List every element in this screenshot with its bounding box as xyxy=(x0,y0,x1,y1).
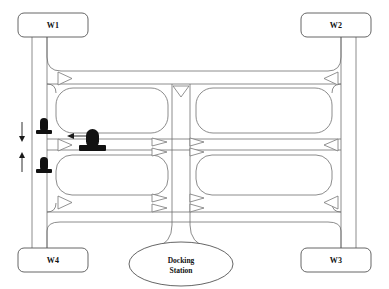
marker-ne-top-icon xyxy=(324,72,338,85)
aisle-top-upper-wall xyxy=(47,37,341,71)
flow-down-left-head xyxy=(19,136,25,142)
shelf-bottom-right[interactable] xyxy=(196,155,332,195)
robot-upper-left[interactable] xyxy=(36,118,52,134)
station-w1[interactable]: W1 xyxy=(18,13,88,37)
station-w2[interactable]: W2 xyxy=(301,13,371,37)
shelf-bottom-left[interactable] xyxy=(56,155,168,195)
fillet-tr-a xyxy=(332,84,341,93)
marker-nw-top-icon xyxy=(58,72,72,85)
marker-center-top-icon xyxy=(173,86,189,97)
marker-midright-b-icon xyxy=(190,148,204,156)
shelf-top-left[interactable] xyxy=(56,88,168,133)
diagram-canvas: W1 W2 W3 W4 Docking Station xyxy=(0,0,389,289)
marker-se-bot-icon xyxy=(324,196,338,209)
station-w1-label: W1 xyxy=(47,21,60,30)
marker-sw-bot-icon xyxy=(58,196,72,209)
station-w4[interactable]: W4 xyxy=(18,248,88,272)
marker-botleft-b-icon xyxy=(152,204,167,212)
flow-up-left-head xyxy=(19,152,25,158)
robot-center-base xyxy=(79,145,106,151)
robot-lower-left-base xyxy=(36,169,52,173)
marker-botright-a-icon xyxy=(190,194,204,202)
station-w2-label: W2 xyxy=(330,21,343,30)
marker-botleft-a-icon xyxy=(152,194,167,202)
warehouse-layout-diagram: W1 W2 W3 W4 Docking Station xyxy=(0,0,389,289)
station-w3-label: W3 xyxy=(330,256,343,265)
docking-station[interactable]: Docking Station xyxy=(129,242,233,286)
fillet-tl-a xyxy=(47,84,56,93)
shelf-top-right[interactable] xyxy=(196,88,332,133)
marker-e-mid-icon xyxy=(324,139,338,151)
marker-botright-b-icon xyxy=(190,204,204,212)
robot-upper-left-base xyxy=(36,130,52,134)
flow-left-center-head xyxy=(67,133,74,139)
robot-lower-left-body xyxy=(40,157,48,171)
marker-w-mid-icon xyxy=(58,139,72,151)
station-w3[interactable]: W3 xyxy=(301,248,371,272)
robot-lower-left[interactable] xyxy=(36,157,52,173)
robot-upper-left-body xyxy=(40,118,48,132)
fillet-bl-a xyxy=(47,203,56,212)
station-w4-label: W4 xyxy=(47,256,60,265)
marker-midleft-b-icon xyxy=(152,148,167,156)
docking-station-label-line2: Station xyxy=(170,266,194,275)
docking-station-label-line1: Docking xyxy=(168,256,195,265)
